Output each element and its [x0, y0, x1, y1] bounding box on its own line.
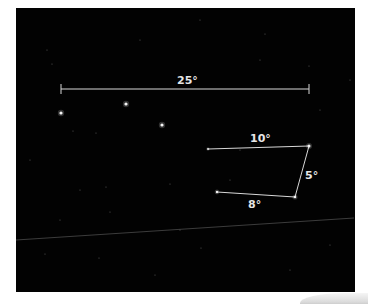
bright-stars [58, 101, 312, 200]
faint-star [95, 132, 96, 133]
span-10-label: 10° [250, 132, 271, 145]
span-8-measure: 8° [217, 192, 295, 211]
faint-star [109, 211, 110, 212]
bright-star [59, 111, 62, 114]
span-5-measure: 5° [295, 146, 318, 197]
faint-star [29, 159, 30, 160]
faint-star [98, 257, 99, 258]
faint-star [139, 39, 140, 40]
faint-star [229, 179, 230, 180]
bright-star [216, 191, 218, 193]
bright-star [160, 123, 163, 126]
bright-star [308, 145, 311, 148]
bright-star [294, 196, 297, 199]
faint-star [46, 49, 47, 50]
bright-star [124, 102, 127, 105]
span-8-label: 8° [248, 198, 261, 211]
faint-star [105, 186, 106, 187]
span-5-label: 5° [305, 169, 318, 182]
faint-star [349, 79, 350, 80]
faint-star [169, 183, 170, 184]
span-8-line [217, 192, 295, 197]
faint-star [72, 130, 73, 131]
faint-star [259, 59, 260, 60]
faint-star [154, 274, 155, 275]
faint-star [264, 33, 265, 34]
faint-star [289, 269, 290, 270]
horizon-line [16, 218, 354, 240]
span-25-bracket: 25° [61, 74, 309, 94]
figure: 25° 10° 5° 8° [0, 0, 368, 304]
faint-star [319, 109, 320, 110]
faint-stars [29, 19, 350, 275]
measurement-overlay: 25° 10° 5° 8° [0, 0, 368, 304]
faint-star [79, 189, 80, 190]
span-10-measure: 10° [208, 132, 309, 149]
faint-star [200, 247, 201, 248]
faint-star [199, 19, 200, 20]
faint-star [329, 244, 330, 245]
faint-star [51, 63, 52, 64]
faint-star [44, 253, 45, 254]
faint-star [59, 219, 60, 220]
faint-star [179, 229, 180, 230]
bright-star [207, 148, 209, 150]
faint-star [308, 65, 309, 66]
faint-star [239, 149, 240, 150]
span-25-label: 25° [177, 74, 198, 87]
span-10-line [208, 146, 309, 149]
